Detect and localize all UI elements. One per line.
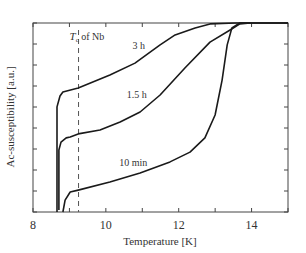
chart: 8101214 Tc of Nb 3 h 1.5 h 10 min Temper… bbox=[0, 0, 306, 253]
x-tick-label: 10 bbox=[100, 218, 112, 232]
curve-3-h bbox=[57, 23, 288, 212]
curve-10-min bbox=[63, 23, 288, 212]
x-axis-title: Temperature [K] bbox=[123, 235, 196, 247]
axis-ticks bbox=[33, 23, 288, 212]
tc-text: of Nb bbox=[79, 31, 105, 42]
y-axis-title: Ac-susceptibility [a.u.] bbox=[4, 66, 16, 167]
x-tick-label: 8 bbox=[30, 218, 36, 232]
tc-nb-annotation: Tc of Nb bbox=[70, 30, 105, 44]
curves bbox=[57, 23, 288, 212]
curve-label-1-5h: 1.5 h bbox=[127, 89, 147, 100]
x-tick-labels: 8101214 bbox=[30, 218, 258, 232]
x-tick-label: 14 bbox=[246, 218, 258, 232]
curve-label-10min: 10 min bbox=[119, 157, 147, 168]
curve-1-5-h bbox=[59, 23, 250, 210]
x-tick-label: 12 bbox=[173, 218, 185, 232]
plot-frame bbox=[33, 23, 288, 212]
curve-label-3h: 3 h bbox=[132, 40, 145, 51]
